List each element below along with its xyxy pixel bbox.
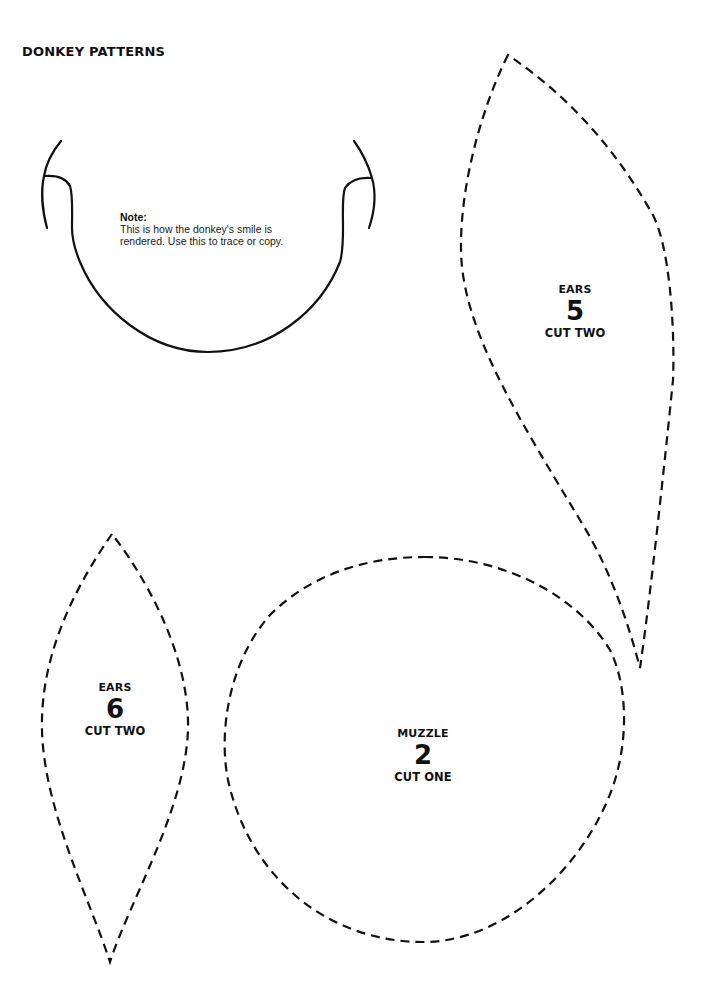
note-heading: Note: — [120, 211, 300, 223]
piece-number: 5 — [515, 296, 635, 326]
note-text: This is how the donkey's smile is render… — [120, 223, 300, 247]
ears-5-outline — [461, 55, 673, 668]
cut-instruction: CUT TWO — [55, 724, 175, 738]
smile-note: Note: This is how the donkey's smile is … — [120, 211, 300, 247]
piece-number: 6 — [55, 694, 175, 724]
piece-name: MUZZLE — [363, 727, 483, 740]
muzzle-2-label: MUZZLE 2 CUT ONE — [363, 727, 483, 784]
piece-number: 2 — [363, 740, 483, 770]
cut-instruction: CUT ONE — [363, 770, 483, 784]
piece-name: EARS — [515, 283, 635, 296]
cut-instruction: CUT TWO — [515, 326, 635, 340]
ears-6-label: EARS 6 CUT TWO — [55, 681, 175, 738]
ears-5-label: EARS 5 CUT TWO — [515, 283, 635, 340]
ears-6-outline — [42, 534, 188, 962]
piece-name: EARS — [55, 681, 175, 694]
pattern-shapes — [0, 0, 710, 986]
